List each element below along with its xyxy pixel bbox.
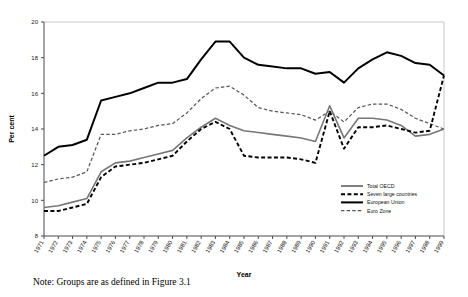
x-tick-label: 1974 (76, 239, 88, 254)
y-axis-title: Per cent (8, 115, 15, 143)
x-tick-label: 1993 (347, 239, 359, 254)
x-tick-label: 1995 (376, 239, 388, 254)
line-chart: 8101214161820 19711972197319741975197619… (0, 0, 468, 297)
x-tick-label: 1997 (404, 239, 416, 254)
legend-label: Euro Zone (367, 208, 391, 214)
x-tick-label: 1981 (176, 239, 188, 254)
x-tick-label: 1987 (262, 239, 274, 254)
x-tick-label: 1986 (247, 239, 259, 254)
x-tick-label: 1994 (362, 239, 374, 254)
legend-label: Total OECD (367, 183, 395, 189)
x-tick-label: 1976 (104, 239, 116, 254)
x-tick-label: 1977 (119, 239, 131, 254)
x-tick-label: 1971 (33, 239, 45, 254)
x-axis-title: Year (237, 271, 252, 278)
x-tick-label: 1991 (319, 239, 331, 254)
x-tick-label: 1980 (162, 239, 174, 254)
y-axis-ticks: 8101214161820 (31, 19, 44, 239)
x-tick-label: 1998 (419, 239, 431, 254)
x-tick-label: 1990 (304, 239, 316, 254)
x-tick-label: 1999 (433, 239, 445, 254)
y-tick-label: 12 (31, 162, 38, 168)
x-tick-label: 1973 (62, 239, 74, 254)
x-tick-label: 1984 (219, 239, 231, 254)
y-tick-label: 8 (35, 233, 39, 239)
x-tick-label: 1979 (147, 239, 159, 254)
x-axis-ticks: 1971197219731974197519761977197819791980… (33, 236, 445, 254)
figure-note: Note: Groups are as defined in Figure 3.… (33, 277, 191, 287)
y-tick-label: 18 (31, 55, 38, 61)
y-tick-label: 16 (31, 91, 38, 97)
legend-label: Seven large countries (367, 191, 418, 197)
x-tick-label: 1975 (90, 239, 102, 254)
x-tick-label: 1972 (47, 239, 59, 254)
y-tick-label: 14 (31, 126, 38, 132)
x-tick-label: 1989 (290, 239, 302, 254)
x-tick-label: 1992 (333, 239, 345, 254)
figure-container: 8101214161820 19711972197319741975197619… (0, 0, 468, 297)
x-tick-label: 1978 (133, 239, 145, 254)
x-tick-label: 1983 (204, 239, 216, 254)
legend-label: European Union (367, 199, 405, 205)
x-tick-label: 1996 (390, 239, 402, 254)
x-tick-label: 1988 (276, 239, 288, 254)
y-tick-label: 10 (31, 198, 38, 204)
x-tick-label: 1985 (233, 239, 245, 254)
y-tick-label: 20 (31, 19, 38, 25)
x-tick-label: 1982 (190, 239, 202, 254)
